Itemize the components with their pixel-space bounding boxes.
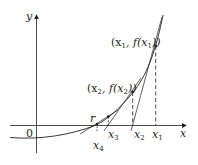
root-label: r <box>90 112 96 125</box>
tangent-line-x1 <box>131 17 162 131</box>
newtons-method-diagram: y x 0 (x1, f(x1)) (x2, f(x2)) r <box>0 0 198 165</box>
point-label-x1: (x1, f(x1)) <box>111 36 161 50</box>
point-label-x2: (x2, f(x2)) <box>87 82 137 96</box>
point-x3 <box>107 115 110 118</box>
function-curve <box>10 15 163 138</box>
x-axis-label: x <box>180 127 187 140</box>
x3-label: x3 <box>108 128 119 142</box>
x2-label: x2 <box>134 128 145 142</box>
x1-label: x1 <box>152 128 163 142</box>
x4-label: x4 <box>93 139 104 153</box>
y-axis-label: y <box>25 10 33 23</box>
point-x4 <box>96 123 98 125</box>
